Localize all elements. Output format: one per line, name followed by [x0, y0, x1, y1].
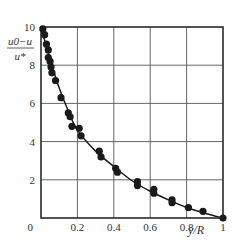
data-point	[150, 190, 157, 197]
data-point	[114, 169, 121, 176]
data-point	[134, 182, 141, 189]
x-tick-label: 0.6	[143, 221, 157, 233]
plot-frame	[41, 27, 223, 218]
data-point	[219, 214, 226, 221]
y-axis-tick-labels: 0246810	[24, 21, 36, 233]
x-tick-label: 1	[220, 221, 226, 233]
data-point	[52, 77, 59, 84]
data-point	[45, 46, 52, 53]
y-label-numerator: u0−u	[8, 35, 32, 47]
chart: 0.20.40.60.81 0246810 u0−u u* y/R	[0, 0, 236, 251]
data-point	[57, 94, 64, 101]
grid-lines	[41, 27, 223, 218]
fit-curve	[41, 27, 223, 218]
y-tick-label: 2	[30, 174, 36, 186]
x-axis-label: y/R	[187, 223, 205, 237]
x-tick-label: 0.4	[107, 221, 121, 233]
data-point	[68, 123, 75, 130]
data-points	[39, 25, 226, 221]
data-point	[77, 132, 84, 139]
y-tick-label: 4	[30, 136, 36, 148]
data-point	[76, 125, 83, 132]
data-point	[185, 204, 192, 211]
y-tick-label: 6	[30, 97, 36, 109]
data-point	[199, 208, 206, 215]
y-tick-label: 8	[30, 59, 36, 71]
data-point	[41, 31, 48, 38]
data-point	[48, 69, 55, 76]
x-tick-label: 0.2	[71, 221, 85, 233]
data-point	[97, 153, 104, 160]
data-point	[168, 199, 175, 206]
data-point	[67, 113, 74, 120]
y-tick-label: 0	[28, 221, 34, 233]
y-tick-label: 10	[24, 21, 36, 33]
y-axis-label: u0−u u*	[7, 35, 34, 62]
y-label-denominator: u*	[15, 50, 27, 62]
